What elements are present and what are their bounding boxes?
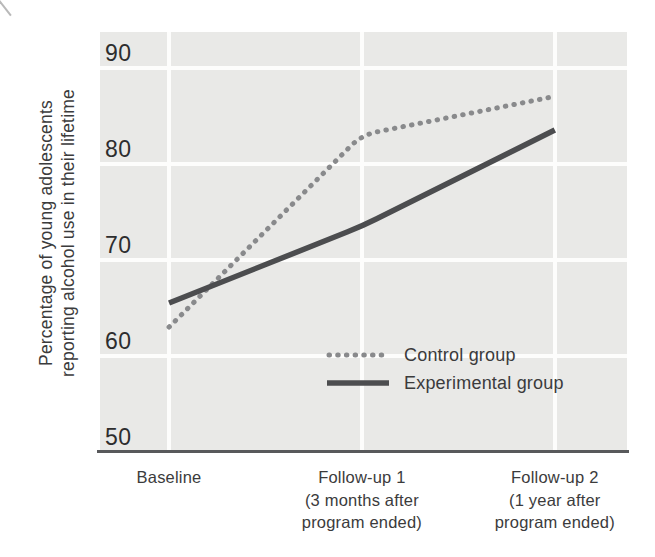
legend-item-experimental-group: Experimental group <box>325 369 564 397</box>
x-axis-label-line: (1 year after <box>445 489 655 512</box>
legend-label-experimental-group: Experimental group <box>404 373 564 394</box>
experimental-group-solid-swatch <box>325 378 391 388</box>
x-axis-label-line: (3 months after <box>252 489 472 512</box>
x-axis-label-line: program ended) <box>445 511 655 534</box>
alcohol-use-line-chart: Percentage of young adolescents reportin… <box>0 0 655 557</box>
x-axis-label-follow-up-2: Follow-up 2(1 year afterprogram ended) <box>445 466 655 534</box>
scan-corner-artifact <box>0 0 12 16</box>
legend-item-control-group: Control group <box>325 341 564 369</box>
legend-label-control-group: Control group <box>404 345 516 366</box>
y-axis-title-line1: Percentage of young adolescents <box>35 43 57 423</box>
x-axis-label-baseline: Baseline <box>59 466 279 489</box>
y-axis-title: Percentage of young adolescents reportin… <box>35 43 81 423</box>
control-group-line <box>169 96 555 327</box>
experimental-group-line <box>169 130 555 303</box>
plot-area: 9080706050 Control group Experimental gr… <box>100 32 627 452</box>
x-axis-label-line: program ended) <box>252 511 472 534</box>
x-axis-label-line: Baseline <box>59 466 279 489</box>
x-axis-label-line: Follow-up 1 <box>252 466 472 489</box>
x-axis-label-follow-up-1: Follow-up 1(3 months afterprogram ended) <box>252 466 472 534</box>
x-axis-label-line: Follow-up 2 <box>445 466 655 489</box>
control-group-dotted-swatch <box>325 350 391 360</box>
legend: Control group Experimental group <box>325 341 564 397</box>
y-axis-title-line2: reporting alcohol use in their lifetime <box>57 43 79 423</box>
